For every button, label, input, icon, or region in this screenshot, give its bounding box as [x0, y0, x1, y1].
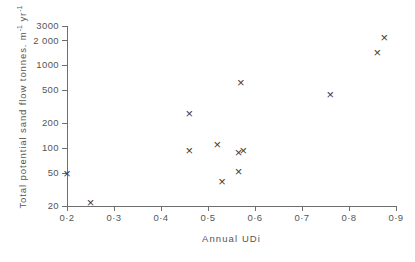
y-tick-label-1000: 1000: [36, 59, 59, 70]
y-tick-label-200: 200: [42, 117, 59, 128]
x-axis-line: [67, 206, 396, 207]
x-tick-0-2: [67, 206, 68, 211]
x-tick-label-0-3: 0·3: [97, 212, 131, 223]
scatter-chart-figure: Total potential sand flow tonnes. m-1 yr…: [0, 0, 415, 262]
x-tick-0-9: [396, 206, 397, 211]
y-tick-label-50: 50: [48, 167, 59, 178]
y-tick-100: [62, 148, 68, 149]
data-point: [233, 147, 244, 158]
x-tick-label-0-9: 0·9: [379, 212, 413, 223]
data-point: [212, 139, 223, 150]
y-tick-1000: [62, 65, 68, 66]
x-axis-title: Annual UDi: [67, 233, 396, 244]
y-axis-title: Total potential sand flow tonnes. m-1 yr…: [16, 1, 28, 213]
y-tick-50: [62, 173, 68, 174]
y-tick-3000: [62, 26, 68, 27]
x-tick-label-0-2: 0·2: [50, 212, 84, 223]
x-tick-label-0-4: 0·4: [144, 212, 178, 223]
data-point: [217, 176, 228, 187]
x-tick-0-3: [114, 206, 115, 211]
data-point: [372, 47, 383, 58]
x-tick-0-7: [302, 206, 303, 211]
x-tick-0-4: [161, 206, 162, 211]
y-tick-label-20: 20: [48, 200, 59, 211]
x-tick-0-5: [208, 206, 209, 211]
y-tick-label-100: 100: [42, 142, 59, 153]
x-tick-0-8: [349, 206, 350, 211]
x-tick-label-0-7: 0·7: [285, 212, 319, 223]
data-point: [235, 77, 246, 88]
y-tick-200: [62, 123, 68, 124]
data-point: [184, 108, 195, 119]
x-tick-0-6: [255, 206, 256, 211]
y-tick-label-2000: 2 000: [33, 35, 59, 46]
y-axis-title-container: Total potential sand flow tonnes. m-1 yr…: [0, 0, 26, 222]
x-tick-label-0-8: 0·8: [332, 212, 366, 223]
data-point: [325, 89, 336, 100]
y-axis-line: [67, 26, 68, 207]
x-tick-label-0-6: 0·6: [238, 212, 272, 223]
y-tick-label-500: 500: [42, 84, 59, 95]
data-point: [238, 145, 249, 156]
y-tick-label-3000: 3000: [36, 20, 59, 31]
y-tick-500: [62, 90, 68, 91]
data-point: [184, 145, 195, 156]
data-point: [233, 166, 244, 177]
y-tick-2000: [62, 40, 68, 41]
x-tick-label-0-5: 0·5: [191, 212, 225, 223]
data-point: [379, 32, 390, 43]
